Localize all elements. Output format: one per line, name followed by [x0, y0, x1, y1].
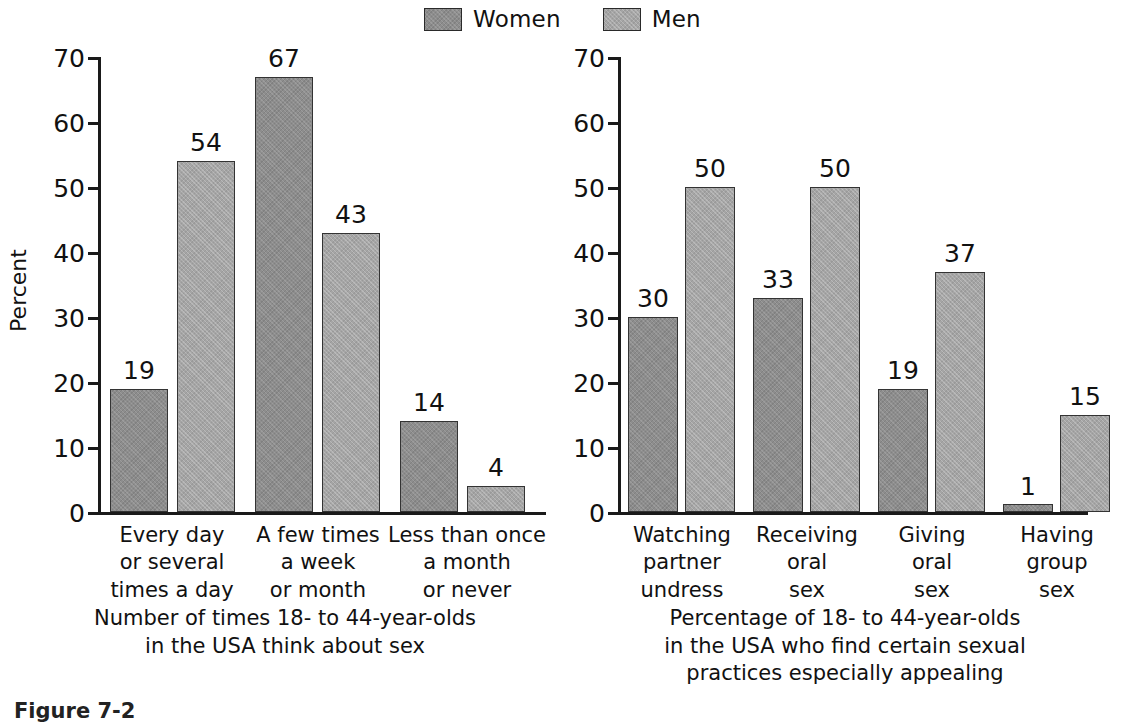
bar-women-right-1	[753, 298, 803, 513]
category-label-right-3: Having group sex	[985, 522, 1125, 604]
legend-swatch-men	[603, 8, 641, 31]
bar-women-right-0	[628, 317, 678, 512]
category-label-1-line-2: or month	[238, 577, 398, 604]
bar-value-men-right-3: 15	[1060, 382, 1110, 411]
panel-caption-right-line-0: Percentage of 18- to 44-year-olds	[585, 605, 1105, 633]
bar-men-2	[467, 486, 525, 512]
category-label-right-2-line-1: oral	[860, 549, 1004, 576]
category-label-right-1: Receiving oral sex	[735, 522, 879, 604]
bar-men-0	[177, 161, 235, 512]
panel-caption-left-line-0: Number of times 18- to 44-year-olds	[40, 605, 530, 633]
legend-item-women: Women	[424, 6, 561, 32]
bar-value-women-right-0: 30	[628, 284, 678, 313]
category-label-0-line-1: or several	[92, 549, 252, 576]
legend-label-men: Men	[652, 6, 701, 32]
bar-value-women-right-1: 33	[753, 265, 803, 294]
category-label-2-line-0: Less than once	[378, 522, 556, 549]
category-label-2-line-2: or never	[378, 577, 556, 604]
bar-men-right-1	[810, 187, 860, 512]
bar-value-men-2: 4	[467, 453, 525, 482]
category-label-2-line-1: a month	[378, 549, 556, 576]
bar-value-men-1: 43	[322, 200, 380, 229]
bar-value-women-right-2: 19	[878, 356, 928, 385]
bar-men-right-0	[685, 187, 735, 512]
bar-women-2	[400, 421, 458, 512]
category-label-right-2-line-2: sex	[860, 577, 1004, 604]
bar-women-right-2	[878, 389, 928, 513]
category-label-right-0: Watching partner undress	[610, 522, 754, 604]
bar-value-women-1: 67	[255, 44, 313, 73]
category-label-1-line-1: a week	[238, 549, 398, 576]
chart-legend: Women Men	[0, 6, 1125, 32]
bar-men-right-3	[1060, 415, 1110, 513]
category-label-right-3-line-2: sex	[985, 577, 1125, 604]
panel-caption-right: Percentage of 18- to 44-year-olds in the…	[585, 605, 1105, 688]
bar-men-1	[322, 233, 380, 513]
category-label-1-line-0: A few times	[238, 522, 398, 549]
category-label-0-line-2: times a day	[92, 577, 252, 604]
bar-value-men-0: 54	[177, 128, 235, 157]
bar-value-men-right-2: 37	[935, 239, 985, 268]
category-label-2: Less than once a month or never	[378, 522, 556, 604]
category-label-right-2: Giving oral sex	[860, 522, 1004, 604]
panel-caption-right-line-1: in the USA who find certain sexual	[585, 633, 1105, 661]
category-label-right-0-line-0: Watching	[610, 522, 754, 549]
panel-caption-left-line-1: in the USA think about sex	[40, 633, 530, 661]
category-label-right-1-line-1: oral	[735, 549, 879, 576]
category-label-right-3-line-1: group	[985, 549, 1125, 576]
plot-area-right: 30 50 33 50 19 37 1 15	[560, 48, 1125, 518]
figure-number-label: Figure 7-2	[14, 699, 135, 723]
category-label-0-line-0: Every day	[92, 522, 252, 549]
legend-label-women: Women	[473, 6, 561, 32]
category-label-right-0-line-1: partner	[610, 549, 754, 576]
category-label-right-3-line-0: Having	[985, 522, 1125, 549]
panel-caption-left: Number of times 18- to 44-year-olds in t…	[40, 605, 530, 660]
legend-item-men: Men	[603, 6, 701, 32]
category-label-right-1-line-0: Receiving	[735, 522, 879, 549]
bar-women-0	[110, 389, 168, 513]
bar-women-1	[255, 77, 313, 513]
bar-value-men-right-1: 50	[810, 154, 860, 183]
bar-value-men-right-0: 50	[685, 154, 735, 183]
category-label-1: A few times a week or month	[238, 522, 398, 604]
bar-value-women-0: 19	[110, 356, 168, 385]
category-label-right-1-line-2: sex	[735, 577, 879, 604]
category-label-0: Every day or several times a day	[92, 522, 252, 604]
bar-women-right-3	[1003, 504, 1053, 512]
plot-area-left: 19 54 67 43 14 4	[0, 48, 566, 518]
category-label-right-0-line-2: undress	[610, 577, 754, 604]
category-label-right-2-line-0: Giving	[860, 522, 1004, 549]
bar-value-women-right-3: 1	[1003, 472, 1053, 501]
panel-caption-right-line-2: practices especially appealing	[585, 660, 1105, 688]
bar-men-right-2	[935, 272, 985, 513]
legend-swatch-women	[424, 8, 462, 31]
bar-value-women-2: 14	[400, 388, 458, 417]
